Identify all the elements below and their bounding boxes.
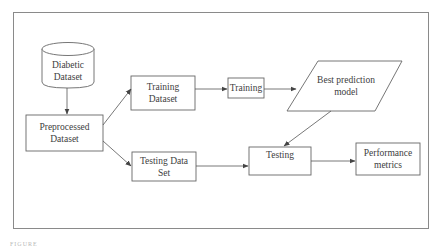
testing-label: Testing [249, 148, 311, 162]
figure-caption: FIGURE [10, 241, 38, 247]
testing-dataset-label: Testing Data Set [134, 152, 194, 181]
performance-metrics-label: Performance metrics [364, 144, 412, 174]
best-model-label: Best prediction model [310, 70, 382, 102]
training-dataset-label: Training Dataset [140, 77, 186, 109]
diabetic-dataset-label: Diabetic Dataset [44, 58, 92, 84]
training-label: Training [228, 78, 264, 98]
preprocessed-dataset-label: Preprocessed Dataset [28, 116, 101, 150]
arrow-preprocessed-to-training-dataset [103, 89, 131, 125]
arrow-preprocessed-to-testing-dataset [103, 141, 131, 166]
arrow-model-to-testing [284, 111, 331, 146]
